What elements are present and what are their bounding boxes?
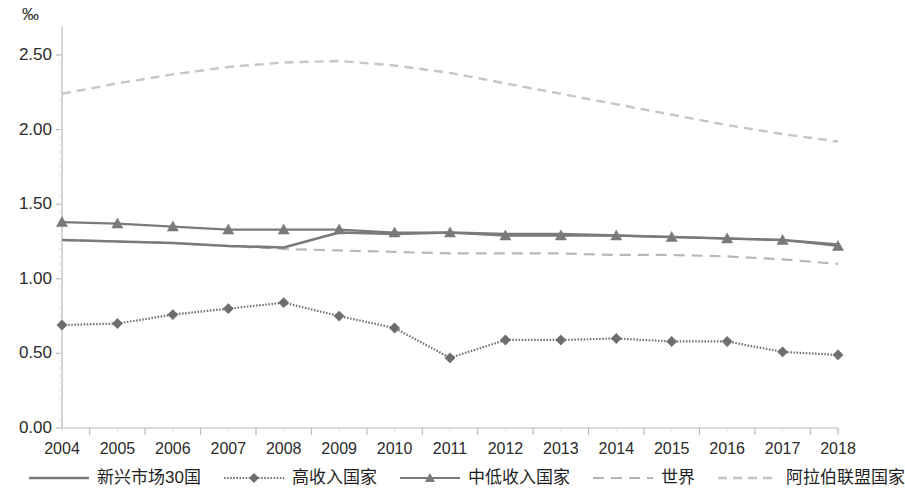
x-axis-tick-label: 2015 bbox=[644, 441, 700, 457]
legend-label: 世界 bbox=[661, 469, 695, 486]
series-marker-diamond bbox=[445, 353, 455, 363]
y-axis-tick-label: 2.00 bbox=[6, 121, 52, 138]
legend-marker-diamond bbox=[249, 473, 259, 483]
series-marker-diamond bbox=[611, 333, 621, 343]
series-marker-diamond bbox=[777, 347, 787, 357]
legend-swatch-solid bbox=[399, 471, 461, 485]
series-marker-diamond bbox=[57, 320, 67, 330]
legend-item[interactable]: 世界 bbox=[592, 469, 695, 486]
x-axis-tick-label: 2016 bbox=[699, 441, 755, 457]
series-marker-diamond bbox=[168, 309, 178, 319]
legend-swatch-solid-thick bbox=[28, 471, 90, 485]
x-axis-tick-label: 2010 bbox=[367, 441, 423, 457]
legend-swatch-dotted bbox=[223, 471, 285, 485]
x-axis-tick-label: 2012 bbox=[477, 441, 533, 457]
legend-item[interactable]: 新兴市场30国 bbox=[28, 469, 201, 486]
x-axis-tick-label: 2006 bbox=[145, 441, 201, 457]
x-axis-tick-label: 2009 bbox=[311, 441, 367, 457]
series-5 bbox=[62, 61, 838, 142]
series-marker-diamond bbox=[112, 318, 122, 328]
series-marker-diamond bbox=[223, 303, 233, 313]
x-axis-tick-label: 2014 bbox=[588, 441, 644, 457]
series-marker-diamond bbox=[556, 335, 566, 345]
series-line bbox=[62, 303, 838, 358]
series-2 bbox=[57, 297, 843, 363]
legend-label: 中低收入国家 bbox=[468, 469, 570, 486]
y-axis-tick-label: 1.00 bbox=[6, 270, 52, 287]
legend-label: 新兴市场30国 bbox=[97, 469, 201, 486]
legend-item[interactable]: 中低收入国家 bbox=[399, 469, 570, 486]
y-axis-tick-label: 1.50 bbox=[6, 195, 52, 212]
series-line bbox=[62, 61, 838, 142]
x-axis-tick-label: 2007 bbox=[200, 441, 256, 457]
legend-label: 阿拉伯联盟国家 bbox=[786, 469, 905, 486]
x-axis-tick-label: 2004 bbox=[34, 441, 90, 457]
series-marker-diamond bbox=[722, 336, 732, 346]
y-axis-tick-label: 0.50 bbox=[6, 344, 52, 361]
legend-label: 高收入国家 bbox=[292, 469, 377, 486]
x-axis-tick-label: 2018 bbox=[810, 441, 866, 457]
series-marker-diamond bbox=[389, 323, 399, 333]
series-marker-diamond bbox=[833, 350, 843, 360]
series-marker-diamond bbox=[667, 336, 677, 346]
legend-item[interactable]: 阿拉伯联盟国家 bbox=[717, 469, 905, 486]
legend-swatch-short-dash bbox=[717, 471, 779, 485]
x-axis-tick-label: 2005 bbox=[89, 441, 145, 457]
y-axis-tick-label: 2.50 bbox=[6, 46, 52, 63]
y-axis-tick-label: 0.00 bbox=[6, 419, 52, 436]
legend-item[interactable]: 高收入国家 bbox=[223, 469, 377, 486]
series-3 bbox=[56, 217, 843, 251]
x-axis-tick-label: 2017 bbox=[755, 441, 811, 457]
x-axis-tick-label: 2008 bbox=[256, 441, 312, 457]
chart-legend: 新兴市场30国高收入国家中低收入国家世界阿拉伯联盟国家 bbox=[0, 462, 853, 493]
x-axis-tick-label: 2011 bbox=[422, 441, 478, 457]
series-marker-diamond bbox=[500, 335, 510, 345]
legend-swatch-long-dash bbox=[592, 471, 654, 485]
x-axis-tick-label: 2013 bbox=[533, 441, 589, 457]
series-marker-diamond bbox=[279, 297, 289, 307]
series-marker-diamond bbox=[334, 311, 344, 321]
